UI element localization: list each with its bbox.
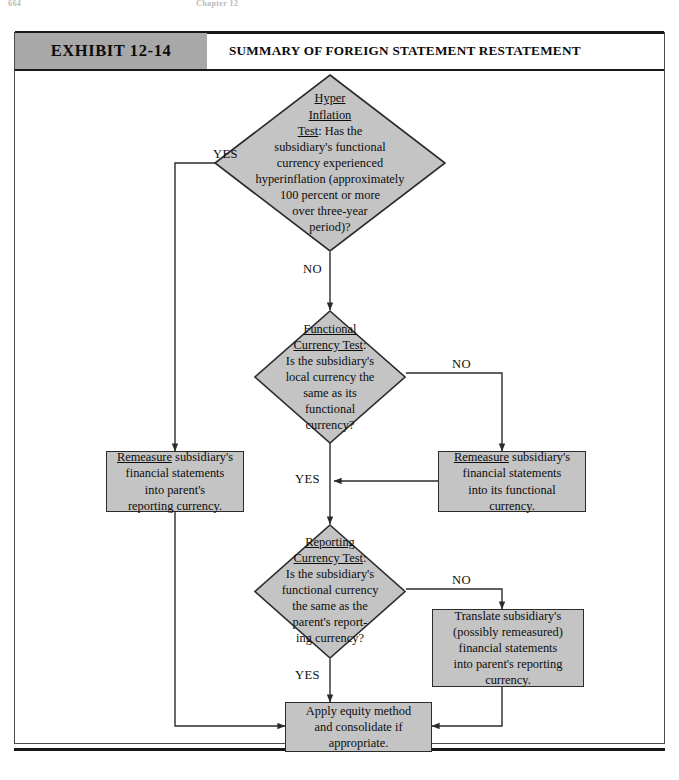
edge-label-functional-no: NO [452, 357, 471, 372]
decision-title-line: Currency Test: [294, 337, 367, 353]
decision-functional-currency-text: Functional Currency Test: Is the subsidi… [236, 326, 424, 428]
decision-body-line: functional [305, 401, 355, 417]
decision-body-line: ing currency? [296, 630, 364, 646]
process-line: Remeasure subsidiary's [117, 449, 233, 465]
process-line: and consolidate if [306, 719, 411, 735]
process-line: into parent's reporting [453, 656, 563, 672]
decision-title-line: Functional [304, 321, 357, 337]
process-line: financial statements [454, 465, 570, 481]
decision-body-line: period)? [309, 219, 350, 235]
decision-title-line: Hyper [315, 90, 346, 106]
process-line: into parent's [117, 482, 233, 498]
process-text: Remeasure subsidiary's financial stateme… [117, 449, 233, 514]
process-line: reporting currency. [117, 498, 233, 514]
exhibit-page: 664 Chapter 12 EXHIBIT 12-14 SUMMARY OF … [0, 0, 679, 780]
decision-title-line: Reporting [305, 534, 355, 550]
exhibit-title-block: SUMMARY OF FOREIGN STATEMENT RESTATEMENT [207, 33, 664, 69]
process-line: financial statements [453, 640, 563, 656]
decision-body-line: currency? [306, 417, 355, 433]
edge-label-reporting-yes: YES [295, 668, 320, 683]
decision-body-line: subsidiary's functional [274, 139, 385, 155]
process-text: Apply equity method and consolidate if a… [306, 703, 411, 751]
decision-functional-currency-test: Functional Currency Test: Is the subsidi… [254, 310, 406, 444]
decision-body-line: Is the subsidiary's [286, 566, 374, 582]
decision-body-line: the same as the [292, 598, 367, 614]
process-line: into its functional [454, 482, 570, 498]
decision-body-line: 100 percent or more [280, 187, 380, 203]
process-remeasure-into-functional: Remeasure subsidiary's financial stateme… [438, 451, 586, 512]
decision-body-line: functional currency [282, 582, 379, 598]
process-line: appropriate. [306, 735, 411, 751]
edge-label-functional-yes: YES [295, 472, 320, 487]
decision-body-line: Is the subsidiary's [286, 353, 374, 369]
exhibit-number-block: EXHIBIT 12-14 [15, 33, 207, 69]
process-line: currency. [454, 498, 570, 514]
exhibit-header-bar: EXHIBIT 12-14 SUMMARY OF FOREIGN STATEME… [15, 33, 664, 71]
process-translate-into-parent: Translate subsidiary's (possibly remeasu… [432, 609, 584, 687]
process-apply-equity-method: Apply equity method and consolidate if a… [285, 702, 432, 752]
decision-reporting-currency-text: Reporting Currency Test: Is the subsidia… [236, 538, 424, 643]
process-line: Remeasure subsidiary's [454, 449, 570, 465]
decision-body-line: same as its [303, 385, 357, 401]
page-folio: 664 [8, 0, 21, 8]
decision-reporting-currency-test: Reporting Currency Test: Is the subsidia… [254, 524, 406, 659]
decision-title-line: Inflation [309, 107, 352, 123]
exhibit-title: SUMMARY OF FOREIGN STATEMENT RESTATEMENT [229, 43, 581, 59]
process-line: Apply equity method [306, 703, 411, 719]
process-line: (possibly remeasured) [453, 624, 563, 640]
process-remeasure-into-parent: Remeasure subsidiary's financial stateme… [106, 451, 244, 512]
decision-hyperinflation-test: Hyper Inflation Test: Has the subsidiary… [214, 74, 446, 252]
edge-label-hyper-no: NO [303, 262, 322, 277]
exhibit-number-label: EXHIBIT 12-14 [51, 41, 172, 61]
process-line: Translate subsidiary's [453, 608, 563, 624]
decision-hyperinflation-text: Hyper Inflation Test: Has the subsidiary… [223, 94, 436, 233]
decision-body-line: over three-year [292, 203, 367, 219]
decision-title-line: Test: Has the [298, 123, 363, 139]
decision-body-line: currency experienced [277, 155, 383, 171]
process-text: Remeasure subsidiary's financial stateme… [454, 449, 570, 514]
decision-body-line: parent's report- [293, 614, 368, 630]
decision-title-line: Currency Test: [294, 550, 367, 566]
page-chapter-header: Chapter 12 [196, 0, 238, 8]
decision-body-line: local currency the [286, 369, 375, 385]
decision-body-line: hyperinflation (approximately [255, 171, 404, 187]
edge-label-hyper-yes: YES [213, 147, 238, 162]
process-line: financial statements [117, 465, 233, 481]
edge-label-reporting-no: NO [452, 573, 471, 588]
process-line: currency. [453, 672, 563, 688]
process-text: Translate subsidiary's (possibly remeasu… [453, 608, 563, 689]
